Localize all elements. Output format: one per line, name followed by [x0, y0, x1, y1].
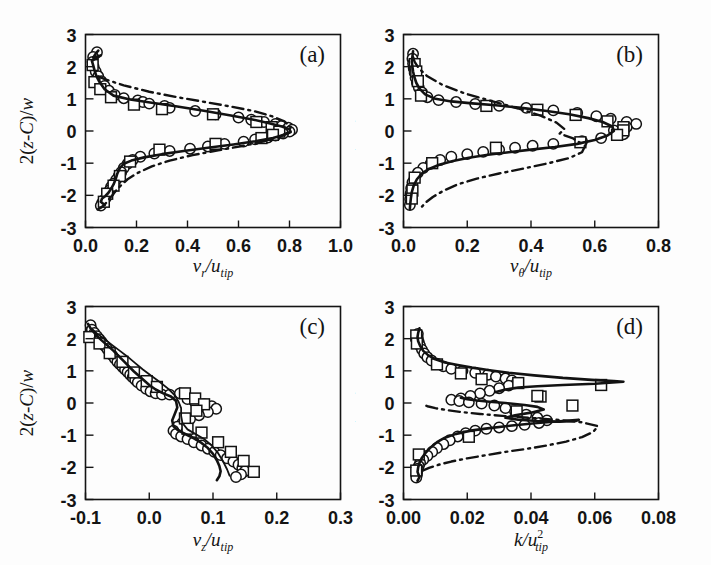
y-tick-label: 3	[66, 26, 76, 46]
y-tick-label: 3	[384, 26, 394, 46]
svg-text:vθ/utip: vθ/utip	[510, 255, 552, 280]
panel-d-tag: (d)	[616, 314, 643, 339]
y-tick-label: 2	[384, 330, 394, 350]
x-tick-label: 0.0	[391, 236, 416, 256]
panel-d-svg: 0.000.020.040.060.08-3-2-10123 (d) 2(z-C…	[355, 278, 711, 565]
panel-c: -0.10.00.10.20.3-3-2-10123 (c) 2(z-C)/w …	[0, 278, 360, 565]
svg-text:k/u2tip: k/u2tip	[514, 527, 548, 554]
data-markers-square	[406, 59, 628, 204]
x-tick-label: 0.2	[124, 236, 149, 256]
panel-c-tag: (c)	[299, 314, 325, 339]
x-tick-label: 0.08	[641, 508, 676, 528]
x-tick-label: 0.8	[277, 236, 302, 256]
svg-text:vz/utip: vz/utip	[193, 529, 234, 554]
y-tick-label: 1	[384, 362, 394, 382]
panel-d-series	[411, 328, 624, 482]
y-tick-label: 1	[384, 90, 394, 110]
y-tick-label: 0	[384, 122, 394, 142]
y-tick-label: -2	[378, 458, 394, 478]
y-tick-label: 2	[66, 58, 76, 78]
panel-c-series	[84, 320, 259, 482]
x-tick-label: 0.06	[577, 508, 612, 528]
panel-c-ylabel: 2(z-C)/w	[16, 369, 38, 436]
svg-text:2(z-C)/w: 2(z-C)/w	[16, 369, 38, 436]
y-tick-label: -3	[378, 491, 394, 511]
figure-root: 0.00.20.40.60.81.0-3-2-10123 (a) 2(z-C)/…	[0, 0, 711, 565]
x-tick-label: 0.8	[646, 236, 671, 256]
y-tick-label: -3	[60, 219, 76, 239]
panel-b-series	[405, 49, 642, 211]
y-tick-label: -2	[60, 458, 76, 478]
x-tick-label: 0.02	[450, 508, 485, 528]
y-tick-label: 0	[66, 122, 76, 142]
svg-text:vr/utip: vr/utip	[193, 255, 234, 280]
y-tick-label: 2	[66, 330, 76, 350]
data-line-dash-dot	[413, 57, 585, 207]
panel-d-ylabel: 2(z-C)/w	[355, 369, 356, 436]
panel-b-xlabel: vθ/utip	[510, 255, 552, 280]
y-tick-label: -1	[378, 426, 394, 446]
x-tick-label: 0.6	[582, 236, 607, 256]
x-tick-label: 0.04	[513, 508, 548, 528]
panel-a-ylabel: 2(z-C)/w	[16, 97, 38, 164]
y-tick-label: 1	[66, 90, 76, 110]
data-line-solid	[410, 51, 614, 209]
x-tick-label: 0.4	[175, 236, 200, 256]
y-tick-label: -1	[60, 426, 76, 446]
x-tick-label: 0.3	[328, 508, 353, 528]
x-tick-label: 0.0	[137, 508, 162, 528]
y-tick-label: 2	[384, 58, 394, 78]
panel-c-xlabel: vz/utip	[193, 529, 234, 554]
y-tick-label: -1	[378, 154, 394, 174]
panel-a-xlabel: vr/utip	[193, 255, 234, 280]
y-tick-label: 0	[66, 394, 76, 414]
y-tick-label: 3	[384, 298, 394, 318]
x-tick-label: 1.0	[328, 236, 353, 256]
x-tick-label: 0.00	[386, 508, 421, 528]
panel-a-tag: (a)	[299, 42, 325, 67]
x-tick-label: 0.4	[518, 236, 543, 256]
x-tick-label: 0.2	[264, 508, 289, 528]
panel-b-svg: 0.00.20.40.60.8-3-2-10123 (b) 2(z-C)/w v…	[355, 0, 711, 290]
data-markers-circle	[405, 49, 642, 211]
y-tick-label: 1	[66, 362, 76, 382]
svg-text:2(z-C)/w: 2(z-C)/w	[355, 369, 356, 436]
panel-a: 0.00.20.40.60.81.0-3-2-10123 (a) 2(z-C)/…	[0, 0, 360, 290]
panel-b-ylabel: 2(z-C)/w	[355, 97, 356, 164]
y-tick-label: -2	[378, 186, 394, 206]
y-tick-label: -2	[60, 186, 76, 206]
svg-text:2(z-C)/w: 2(z-C)/w	[355, 97, 356, 164]
y-tick-label: 3	[66, 298, 76, 318]
data-markers-square	[84, 332, 259, 478]
y-tick-label: 0	[384, 394, 394, 414]
y-tick-label: -1	[60, 154, 76, 174]
panel-c-svg: -0.10.00.10.20.3-3-2-10123 (c) 2(z-C)/w …	[0, 278, 360, 565]
svg-text:2(z-C)/w: 2(z-C)/w	[16, 97, 38, 164]
panel-b: 0.00.20.40.60.8-3-2-10123 (b) 2(z-C)/w v…	[355, 0, 711, 290]
x-tick-label: -0.1	[70, 508, 101, 528]
x-tick-label: 0.6	[226, 236, 251, 256]
panel-a-svg: 0.00.20.40.60.81.0-3-2-10123 (a) 2(z-C)/…	[0, 0, 360, 290]
x-tick-label: 0.0	[73, 236, 98, 256]
panel-a-series	[87, 47, 297, 211]
panel-d: 0.000.020.040.060.08-3-2-10123 (d) 2(z-C…	[355, 278, 711, 565]
y-tick-label: -3	[378, 219, 394, 239]
panel-d-xlabel: k/u2tip	[514, 527, 548, 554]
panel-b-tag: (b)	[616, 42, 643, 67]
x-tick-label: 0.2	[455, 236, 480, 256]
x-tick-label: 0.1	[200, 508, 225, 528]
y-tick-label: -3	[60, 491, 76, 511]
data-markers-square	[87, 60, 284, 208]
